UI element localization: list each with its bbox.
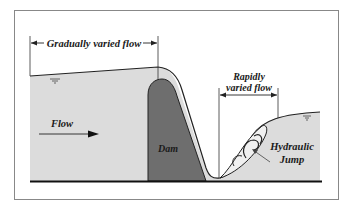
label-dam: Dam	[157, 143, 178, 154]
open-channel-flow-diagram: Gradually varied flow Rapidly varied flo…	[0, 0, 352, 215]
label-varied-flow: varied flow	[226, 82, 272, 93]
label-gradually-varied-flow: Gradually varied flow	[47, 38, 142, 49]
label-rapidly: Rapidly	[232, 71, 265, 82]
label-flow: Flow	[50, 118, 74, 129]
label-jump: Jump	[279, 154, 305, 165]
label-hydraulic: Hydraulic	[269, 141, 314, 152]
